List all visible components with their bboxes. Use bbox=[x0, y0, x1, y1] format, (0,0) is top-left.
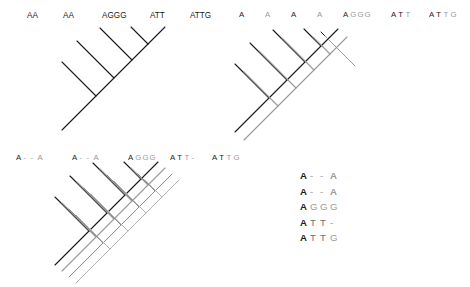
alignment-cell-r4-c1: A bbox=[300, 215, 310, 231]
alignment-cell-r5-c1: A bbox=[300, 230, 310, 246]
tree-spine bbox=[244, 54, 330, 140]
tip-label-group: AAAAAGGGATTATTG bbox=[27, 11, 211, 20]
fan-branch bbox=[333, 44, 355, 66]
tree-branch-tip4 bbox=[131, 27, 148, 44]
tree-branch-tip5 bbox=[155, 174, 172, 191]
alignment-cell-r5-c4: G bbox=[330, 230, 340, 246]
tree-spine bbox=[62, 185, 148, 271]
panel-single-tree: AAAAAGGGATTATTG bbox=[0, 0, 235, 150]
alignment-row: A--A bbox=[300, 184, 430, 200]
tip-label-1-char-4: A bbox=[38, 153, 44, 162]
panel-four-overlay-trees: A--AA--AAGGGATT-ATTG bbox=[0, 143, 262, 287]
tree-spine bbox=[235, 46, 321, 132]
tree-spine bbox=[69, 191, 155, 277]
tip-label-1-char-1: A bbox=[16, 153, 22, 162]
tree-branch-tip4 bbox=[124, 162, 141, 179]
tree-svg-overlay4: A--AA--AAGGGATT-ATTG bbox=[0, 143, 262, 287]
tree-branch-tip5 bbox=[321, 29, 338, 46]
tree-spine bbox=[76, 197, 162, 283]
tree-branch-tip1 bbox=[55, 197, 89, 231]
tree-branch-tip3 bbox=[107, 175, 139, 207]
alignment-rows: A--AA--AAGGGATT-ATTG bbox=[300, 168, 430, 246]
tip-label-3-char-2: G bbox=[135, 153, 141, 162]
tip-label-2: AA bbox=[63, 11, 74, 20]
tip-label-3-char-3: G bbox=[142, 153, 148, 162]
tip-label-6-char-2: T bbox=[398, 10, 403, 19]
tip-label-4-char-4: - bbox=[192, 153, 195, 162]
tip-label-2-char-1: A bbox=[72, 153, 78, 162]
tree-branch-tip2 bbox=[77, 41, 114, 78]
tip-label-4: ATT bbox=[150, 11, 165, 20]
tree-branch-tip1 bbox=[69, 209, 103, 243]
tip-label-4-char-2: T bbox=[177, 153, 182, 162]
tip-label-2-char-1: A bbox=[265, 10, 271, 19]
tree-branch-tip2 bbox=[259, 51, 296, 88]
tree-branch-tip5 bbox=[148, 27, 165, 44]
alignment-cell-r3-c1: A bbox=[300, 199, 310, 215]
tree-spine bbox=[55, 179, 141, 265]
tip-label-7-char-1: A bbox=[429, 10, 435, 19]
tree-branch-tip4 bbox=[304, 29, 321, 46]
tree-branch-tip3 bbox=[114, 181, 146, 213]
tip-label-6-char-1: A bbox=[391, 10, 397, 19]
tip-label-2-char-2: - bbox=[79, 153, 82, 162]
tip-label-5-char-2: T bbox=[219, 153, 224, 162]
alignment-row: ATT- bbox=[300, 215, 430, 231]
tip-label-3-char-1: A bbox=[128, 153, 134, 162]
tip-label-3-char-4: G bbox=[150, 153, 156, 162]
tree-spine bbox=[62, 44, 148, 130]
panel-alignment-block: A--AA--AAGGGATT-ATTG bbox=[300, 168, 430, 273]
tip-label-4-char-1: A bbox=[317, 10, 323, 19]
alignment-cell-r2-c1: A bbox=[300, 184, 310, 200]
tree-branch-tip4 bbox=[138, 174, 155, 191]
tree-branch-tip1 bbox=[76, 215, 110, 249]
alignment-cell-r2-c3: - bbox=[320, 184, 330, 200]
tip-label-group: AAAAAGGGATTATTG bbox=[239, 10, 457, 19]
tree-branch-tip4 bbox=[145, 180, 162, 197]
tree-branch-tip2 bbox=[70, 176, 107, 213]
tree-svg-overlay2: AAAAAGGGATTATTG bbox=[233, 0, 470, 150]
tip-label-5-char-3: T bbox=[226, 153, 231, 162]
tree-branch-tip5 bbox=[148, 168, 165, 185]
alignment-row: A--A bbox=[300, 168, 430, 184]
tree-branch-tip3 bbox=[100, 28, 132, 60]
alignment-cell-r1-c2: - bbox=[310, 168, 320, 184]
alignment-row: AGGG bbox=[300, 199, 430, 215]
tip-label-6-char-3: T bbox=[405, 10, 410, 19]
tip-label-3-char-1: A bbox=[291, 10, 297, 19]
alignment-cell-r5-c2: T bbox=[310, 230, 320, 246]
tree-branch-tip1 bbox=[62, 62, 96, 96]
tree-branch-tip1 bbox=[62, 203, 96, 237]
tree-branch-tip1 bbox=[244, 72, 278, 106]
tree-branch-tip2 bbox=[77, 182, 114, 219]
tip-label-group: A--AA--AAGGGATT-ATTG bbox=[16, 153, 240, 162]
tip-label-2-char-3: - bbox=[86, 153, 89, 162]
tree-branch-tip5 bbox=[141, 162, 158, 179]
alignment-cell-r3-c4: G bbox=[330, 199, 340, 215]
tip-label-7-char-2: T bbox=[436, 10, 441, 19]
tip-label-5-char-1: A bbox=[212, 153, 218, 162]
tip-label-5: ATTG bbox=[190, 11, 211, 20]
tip-label-4-char-3: T bbox=[184, 153, 189, 162]
tree-branch-tip4 bbox=[131, 168, 148, 185]
tip-label-5-char-3: G bbox=[357, 10, 363, 19]
alignment-cell-r2-c4: A bbox=[330, 184, 340, 200]
tip-label-1-char-1: A bbox=[239, 10, 245, 19]
alignment-cell-r3-c3: G bbox=[320, 199, 330, 215]
alignment-cell-r4-c3: T bbox=[320, 215, 330, 231]
branch-group bbox=[55, 162, 179, 283]
tree-branch-tip1 bbox=[235, 64, 269, 98]
tip-label-7-char-4: G bbox=[451, 10, 457, 19]
tip-label-5-char-1: A bbox=[343, 10, 349, 19]
tip-label-3: AGGG bbox=[102, 11, 127, 20]
branch-group bbox=[235, 29, 355, 140]
tree-branch-tip3 bbox=[93, 163, 125, 195]
tree-branch-tip5 bbox=[162, 180, 179, 197]
branch-group bbox=[62, 27, 165, 130]
tree-branch-tip3 bbox=[100, 169, 132, 201]
alignment-cell-r4-c4: - bbox=[330, 215, 340, 231]
alignment-cell-r4-c2: T bbox=[310, 215, 320, 231]
alignment-cell-r5-c3: T bbox=[320, 230, 330, 246]
tree-branch-tip3 bbox=[282, 38, 314, 70]
tree-branch-tip5 bbox=[330, 37, 347, 54]
